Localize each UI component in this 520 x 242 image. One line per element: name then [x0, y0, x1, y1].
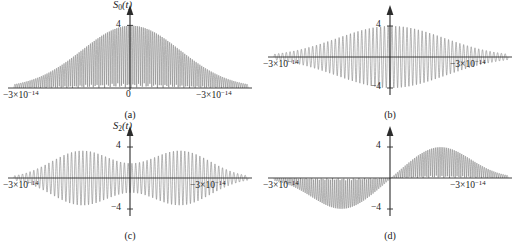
y-tick-top-a: 4	[116, 19, 121, 29]
y-tick-bottom-b: −4	[371, 81, 381, 91]
y-tick-top-d: 4	[376, 140, 381, 150]
plot-svg-b	[260, 0, 520, 104]
panel-caption-d: (d)	[260, 230, 520, 241]
y-tick-bottom-c: −4	[111, 202, 121, 212]
plot-svg-d	[260, 121, 520, 225]
panel-c: S2(t) 4 −4 −3×10−14 −3×10−14 (c)	[0, 121, 260, 242]
plot-area-b	[260, 0, 520, 104]
signal-argument-a: (t)	[122, 0, 132, 10]
panel-caption-c: (c)	[0, 230, 260, 241]
x-tick-left-a: −3×10−14	[3, 89, 39, 100]
x-tick-center-a: 0	[126, 89, 131, 99]
x-tick-right-d: −3×10−14	[450, 179, 486, 190]
plot-svg-c	[0, 121, 260, 225]
x-tick-right-c: −3×10−14	[190, 179, 226, 190]
panel-b: S1(t) 4 −4 −3×10−14 −3×10−14 (b)	[260, 0, 520, 121]
panel-caption-a: (a)	[0, 109, 260, 120]
waveform-a	[14, 26, 248, 88]
x-tick-right-a: −3×10−14	[196, 89, 232, 100]
y-tick-bottom-d: −4	[371, 202, 381, 212]
x-tick-left-c: −3×10−14	[3, 179, 39, 190]
panel-a: S0(t) 4 −3×10−14 0 −3×10−14 (a)	[0, 0, 260, 121]
plot-area-c	[0, 121, 260, 225]
x-tick-right-b: −3×10−14	[450, 58, 486, 69]
figure-panel-grid: S0(t) 4 −3×10−14 0 −3×10−14 (a)	[0, 0, 520, 242]
axis-title-a: S0(t)	[113, 0, 132, 12]
axis-title-c: S2(t)	[113, 120, 132, 133]
y-tick-top-b: 4	[376, 19, 381, 29]
panel-caption-b: (b)	[260, 109, 520, 120]
panel-d: S3(t) 4 −4 −3×10−14 −3×10−14 (d)	[260, 121, 520, 242]
signal-argument-c: (t)	[122, 120, 132, 131]
plot-area-d	[260, 121, 520, 225]
y-tick-top-c: 4	[116, 140, 121, 150]
x-tick-left-b: −3×10−14	[263, 58, 299, 69]
x-tick-left-d: −3×10−14	[263, 179, 299, 190]
